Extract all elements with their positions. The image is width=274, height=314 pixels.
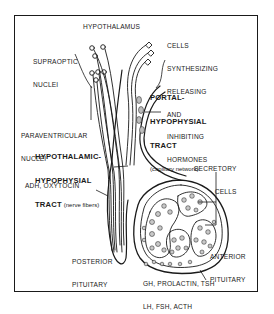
releasing-hormone-cells bbox=[145, 42, 154, 65]
label-adh-oxytocin: ADH, OXYTOCIN bbox=[25, 182, 80, 190]
label-supraoptic-nuclei: SUPRAOPTIC NUCLEI bbox=[33, 43, 78, 96]
label-posterior-pituitary: POSTERIOR PITUITARY bbox=[72, 243, 113, 296]
label-hypothalamus: HYPOTHALAMUS bbox=[83, 23, 140, 31]
label-anterior-hormones: GH, PROLACTIN, TSH LH, FSH, ACTH bbox=[143, 265, 215, 314]
label-secretory-cells: SECRETORY CELLS bbox=[194, 150, 237, 203]
label-hypothalamic-tract: HYPOTHALAMIC- HYPOPHYSIAL TRACT (nerve f… bbox=[35, 138, 101, 217]
nerve-fibers-leader bbox=[114, 166, 128, 167]
label-anterior-pituitary: ANTERIOR PITUITARY bbox=[210, 238, 246, 291]
